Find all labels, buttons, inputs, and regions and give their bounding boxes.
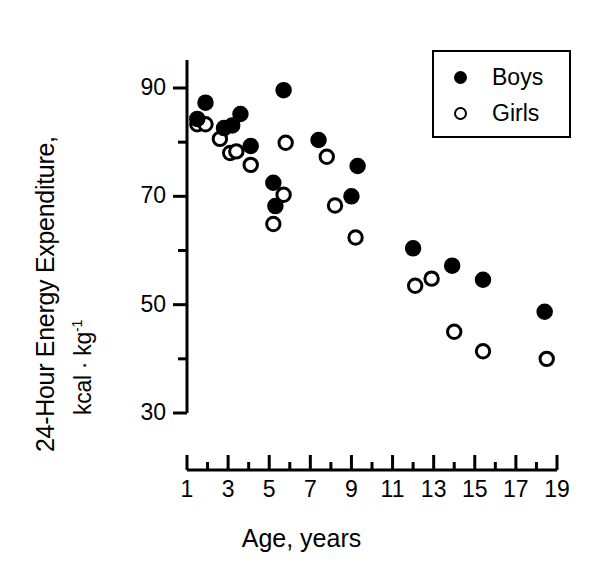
data-point-boys-10	[344, 189, 359, 204]
data-point-boys-7	[268, 199, 283, 214]
y-tick-label-50: 50	[120, 293, 166, 316]
x-axis-ticks	[187, 455, 557, 470]
data-point-boys-12	[406, 241, 421, 256]
x-tick-label-15: 15	[455, 478, 495, 501]
legend-label-boys: Boys	[492, 64, 543, 90]
x-axis-title: Age, years	[0, 524, 603, 553]
data-point-boys-11	[350, 159, 365, 174]
data-point-boys-9	[311, 133, 326, 148]
data-point-girls-16	[540, 352, 553, 365]
data-point-girls-6	[267, 217, 280, 230]
legend-marker-filled-circle-icon	[454, 71, 467, 84]
x-tick-label-7: 7	[290, 478, 330, 501]
data-point-girls-10	[328, 199, 341, 212]
legend-entry-boys: Boys	[434, 62, 573, 96]
data-point-boys-14	[476, 272, 491, 287]
data-point-boys-1	[198, 95, 213, 110]
y-tick-label-70: 70	[120, 184, 166, 207]
data-point-girls-5	[244, 158, 257, 171]
legend-label-girls: Girls	[492, 100, 539, 126]
x-tick-label-11: 11	[373, 478, 413, 501]
data-point-boys-13	[445, 258, 460, 273]
x-tick-label-1: 1	[167, 478, 207, 501]
legend-marker-open-circle-icon	[454, 107, 467, 120]
x-tick-label-9: 9	[331, 478, 371, 501]
x-tick-label-19: 19	[537, 478, 577, 501]
data-point-girls-4	[230, 145, 243, 158]
y-axis-ticks	[173, 88, 187, 413]
x-tick-label-5: 5	[249, 478, 289, 501]
x-tick-label-3: 3	[208, 478, 248, 501]
scatter-chart-figure: 24-Hour Energy Expenditure, kcal · kg-1 …	[0, 0, 603, 584]
data-point-boys-8	[276, 83, 291, 98]
y-tick-label-30: 30	[120, 401, 166, 424]
data-point-boys-15	[537, 304, 552, 319]
x-tick-label-13: 13	[414, 478, 454, 501]
data-series-girls	[191, 118, 554, 366]
data-point-girls-15	[476, 345, 489, 358]
data-point-girls-9	[320, 150, 333, 163]
data-point-girls-11	[349, 231, 362, 244]
y-tick-label-90: 90	[120, 76, 166, 99]
x-tick-label-17: 17	[496, 478, 536, 501]
data-point-girls-8	[279, 136, 292, 149]
data-point-girls-13	[425, 272, 438, 285]
legend: Boys Girls	[432, 50, 571, 138]
data-point-girls-14	[448, 325, 461, 338]
data-point-boys-6	[266, 175, 281, 190]
legend-entry-girls: Girls	[434, 98, 573, 132]
data-point-girls-12	[408, 279, 421, 292]
data-point-boys-0	[190, 111, 205, 126]
data-point-boys-4	[233, 107, 248, 122]
data-point-boys-5	[243, 138, 258, 153]
